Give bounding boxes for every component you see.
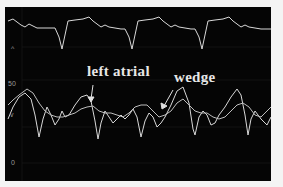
left-atrial-arrow (88, 85, 94, 102)
ecg-trace (8, 17, 271, 49)
axis-label-50: 50 (8, 80, 16, 87)
annotation-wedge: wedge (174, 69, 216, 86)
wedge-arrow (161, 90, 173, 109)
annotation-left-atrial: left atrial (87, 63, 150, 80)
axis-label-0: 0 (11, 159, 15, 166)
wedge-trace (8, 89, 271, 119)
axis-label-marker-up: ^ (11, 45, 14, 52)
axis-label-marker-down: v (10, 111, 14, 118)
monitor-display: ^ 50 v 0 left atrial wedge (5, 7, 271, 181)
waveform-plot (5, 7, 271, 181)
